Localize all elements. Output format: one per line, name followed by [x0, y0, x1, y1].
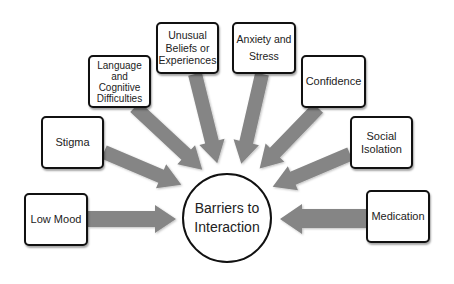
node-language: Language and Cognitive Difficulties [88, 55, 151, 108]
node-label: Social Isolation [361, 130, 402, 156]
node-social-isolation: Social Isolation [350, 116, 413, 169]
node-confidence: Confidence [301, 55, 366, 108]
node-low-mood: Low Mood [24, 193, 88, 246]
node-medication: Medication [366, 190, 430, 243]
node-label: Medication [371, 210, 424, 223]
node-label: Stigma [55, 136, 89, 149]
node-unusual-beliefs: Unusual Beliefs or Experiences [156, 22, 219, 74]
node-anxiety: Anxiety and Stress [232, 22, 296, 74]
node-label: Confidence [306, 75, 362, 88]
arrow-medication [280, 204, 366, 234]
node-stigma: Stigma [41, 116, 104, 169]
center-label: Barriers to Interaction [194, 199, 259, 237]
node-label: Unusual Beliefs or Experiences [159, 29, 217, 67]
arrow-low-mood [88, 205, 176, 233]
node-label: Low Mood [31, 213, 82, 226]
center-node-barriers: Barriers to Interaction [182, 173, 272, 263]
node-label: Anxiety and Stress [237, 31, 292, 65]
node-label: Language and Cognitive Difficulties [97, 60, 142, 104]
